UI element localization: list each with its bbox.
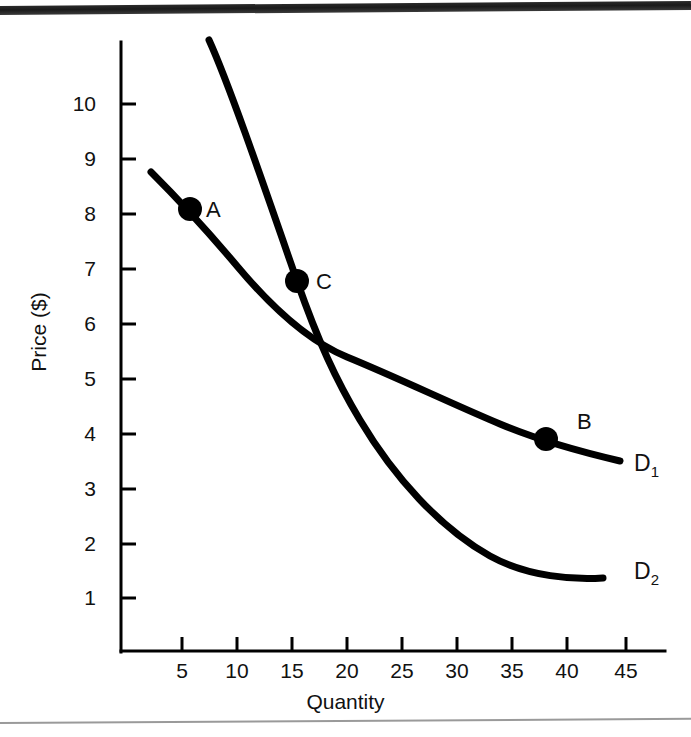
x-tick-label-35: 35 <box>492 660 532 681</box>
data-point-label-a: A <box>206 197 221 223</box>
y-tick-label-10: 10 <box>56 93 96 114</box>
x-tick-label-15: 15 <box>272 660 312 681</box>
y-tick-label-5: 5 <box>56 368 96 389</box>
data-point-marker-a <box>178 197 202 221</box>
demand-curve-d2 <box>209 40 603 579</box>
y-tick-label-3: 3 <box>56 478 96 499</box>
curve-label-d1-base: D <box>634 450 651 476</box>
curve-label-d1-subscript: 1 <box>651 463 659 480</box>
data-point-label-b: B <box>577 409 592 435</box>
y-tick-label-9: 9 <box>56 148 96 169</box>
y-tick-label-7: 7 <box>56 258 96 279</box>
y-axis-ticks <box>121 104 136 598</box>
chart-page: 10 9 8 7 6 5 4 3 2 1 5 10 15 20 25 30 35… <box>0 0 691 737</box>
x-tick-label-30: 30 <box>437 660 477 681</box>
curve-label-d2-subscript: 2 <box>651 571 659 588</box>
demand-curve-d1 <box>151 172 620 461</box>
x-tick-label-40: 40 <box>547 660 587 681</box>
x-tick-label-10: 10 <box>217 660 257 681</box>
y-tick-label-6: 6 <box>56 313 96 334</box>
x-tick-label-20: 20 <box>327 660 367 681</box>
curve-label-d2-base: D <box>634 558 651 584</box>
x-axis-title: Quantity <box>0 690 691 714</box>
x-tick-label-45: 45 <box>606 660 646 681</box>
data-point-marker-b <box>534 427 558 451</box>
data-point-label-c: C <box>316 269 332 295</box>
y-axis-title: Price ($) <box>27 277 51 387</box>
y-tick-label-4: 4 <box>56 423 96 444</box>
curve-label-d1: D1 <box>634 450 659 480</box>
y-tick-label-1: 1 <box>56 587 96 608</box>
x-axis-ticks <box>182 637 626 651</box>
y-tick-label-2: 2 <box>56 533 96 554</box>
demand-curve-plot <box>0 0 691 737</box>
x-tick-label-5: 5 <box>162 660 202 681</box>
x-tick-label-25: 25 <box>382 660 422 681</box>
data-point-marker-c <box>285 269 309 293</box>
y-tick-label-8: 8 <box>56 203 96 224</box>
curve-label-d2: D2 <box>634 558 659 588</box>
